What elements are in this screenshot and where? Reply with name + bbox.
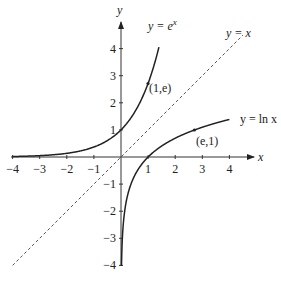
x-tick-label: −4 xyxy=(6,162,19,176)
annotation-1-e: (1,e) xyxy=(149,81,171,95)
x-tick-label: −1 xyxy=(88,162,101,176)
y-tick-label: −1 xyxy=(103,177,116,191)
y-tick-label: −3 xyxy=(103,231,116,245)
x-tick-label: 4 xyxy=(226,162,232,176)
annotation-e-1: (e,1) xyxy=(196,134,218,148)
x-tick-label: −3 xyxy=(33,162,46,176)
y-tick-label: 3 xyxy=(110,69,116,83)
x-tick-label: 3 xyxy=(199,162,205,176)
point-e-1 xyxy=(193,128,196,131)
x-tick-label: 2 xyxy=(172,162,178,176)
axes: −4−3−2−11234 4321−1−2−3−4 x y xyxy=(6,3,264,272)
legend-exp: y = ex xyxy=(147,17,177,33)
chart-canvas: −4−3−2−11234 4321−1−2−3−4 x y (1,e) (e,1… xyxy=(0,0,281,282)
legend-identity: y = x xyxy=(225,26,251,40)
y-tick-label: −2 xyxy=(103,204,116,218)
y-axis-label: y xyxy=(116,3,123,17)
legend-ln: y = ln x xyxy=(240,112,277,126)
y-tick-label: 2 xyxy=(110,96,116,110)
y-tick-label: −4 xyxy=(103,258,116,272)
y-tick-label: 4 xyxy=(110,42,116,56)
x-tick-label: 1 xyxy=(145,162,151,176)
identity-line xyxy=(13,35,243,265)
x-tick-label: −2 xyxy=(60,162,73,176)
exp-curve xyxy=(13,47,159,156)
x-axis-label: x xyxy=(257,150,264,164)
